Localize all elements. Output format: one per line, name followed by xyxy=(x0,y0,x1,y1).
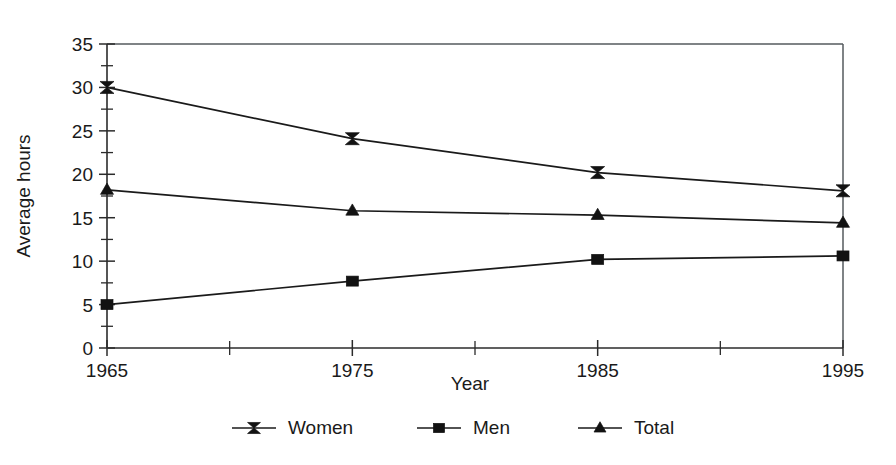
legend-label-women: Women xyxy=(288,417,353,438)
legend-marker-men xyxy=(433,423,444,432)
y-tick-label: 20 xyxy=(72,164,93,185)
x-tick-label: 1995 xyxy=(822,360,864,381)
chart-canvas: 05101520253035 1965197519851995 Average … xyxy=(0,0,896,465)
legend-label-men: Men xyxy=(473,417,510,438)
y-axis-title: Average hours xyxy=(13,134,34,257)
y-tick-label: 5 xyxy=(82,295,93,316)
y-tick-label: 35 xyxy=(72,34,93,55)
data-point-men-1975 xyxy=(346,276,358,286)
y-tick-label: 15 xyxy=(72,208,93,229)
y-tick-label: 25 xyxy=(72,121,93,142)
x-tick-label: 1965 xyxy=(86,360,128,381)
y-tick-label: 10 xyxy=(72,251,93,272)
y-tick-label: 30 xyxy=(72,77,93,98)
data-point-men-1965 xyxy=(101,300,113,310)
x-tick-label: 1975 xyxy=(331,360,373,381)
data-point-men-1995 xyxy=(837,251,849,261)
legend-label-total: Total xyxy=(634,417,674,438)
data-point-men-1985 xyxy=(592,254,604,264)
chart-background xyxy=(0,0,896,465)
line-chart: 05101520253035 1965197519851995 Average … xyxy=(0,0,896,465)
y-tick-label: 0 xyxy=(82,338,93,359)
x-tick-label: 1985 xyxy=(577,360,619,381)
x-axis-title: Year xyxy=(451,373,490,394)
